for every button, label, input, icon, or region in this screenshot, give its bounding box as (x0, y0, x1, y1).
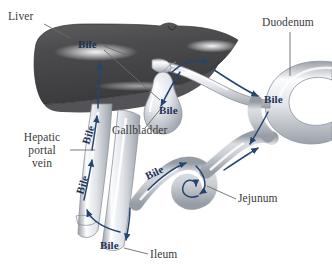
label-jejunum: Jejunum (238, 192, 278, 205)
bile-label-gallbladder: Bile (159, 104, 178, 116)
label-hepatic-portal-vein-line-2: portal (28, 144, 55, 157)
label-ileum: Ileum (150, 248, 177, 260)
label-hepatic-portal-vein: Hepatic portal vein (24, 131, 60, 169)
liver-organ (34, 23, 238, 113)
anatomical-illustration: Liver Duodenum Gallbladder Jejunum Ileum… (0, 0, 332, 270)
label-hepatic-portal-vein-line-1: Hepatic (24, 131, 60, 144)
leader-line-ileum (124, 248, 148, 254)
label-gallbladder: Gallbladder (112, 124, 167, 136)
bile-label-ileum: Bile (100, 239, 119, 251)
bile-label-liver: Bile (78, 38, 97, 50)
label-liver: Liver (8, 10, 33, 22)
bile-flow-diagram: Liver Duodenum Gallbladder Jejunum Ileum… (0, 0, 332, 270)
label-duodenum: Duodenum (262, 16, 314, 28)
bile-label-duodenum: Bile (264, 93, 283, 105)
label-hepatic-portal-vein-line-3: vein (32, 157, 52, 169)
